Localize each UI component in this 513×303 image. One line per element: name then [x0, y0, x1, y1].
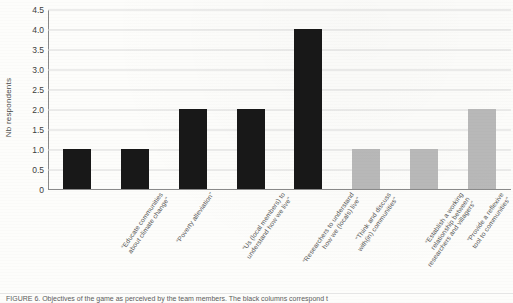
bar-slot [164, 9, 222, 189]
bar-slot [222, 9, 280, 189]
y-tick-label: 4.5 [32, 5, 44, 15]
x-tick-label: “Researchers to understandhow we (locals… [301, 191, 362, 269]
x-tick-label-line: how we (locals) live” [307, 195, 362, 268]
bar[interactable] [121, 149, 149, 189]
y-tick-label: 0 [39, 185, 44, 195]
y-tick-label: 0.5 [32, 165, 44, 175]
bar-slot [337, 9, 395, 189]
y-tick-label: 1.0 [32, 145, 44, 155]
y-tick-label: 1.5 [32, 125, 44, 135]
x-tick-label-line: “Poverty alleviation” [174, 191, 215, 245]
plot-area [48, 10, 511, 190]
bar-series [48, 10, 511, 190]
x-tick-label-line: “Researchers to understand [301, 191, 356, 264]
y-axis-title-text: Nb respondents [5, 77, 14, 136]
x-tick-label: “Educate communitiesabout climate change… [120, 191, 171, 255]
bar[interactable] [179, 109, 207, 189]
figure-container: Nb respondents 4.54.03.53.02.52.01.51.00… [0, 0, 513, 303]
y-axis-title: Nb respondents [2, 52, 16, 162]
bar-slot [106, 9, 164, 189]
y-axis-tick-labels: 4.54.03.53.02.52.01.51.00.50 [16, 10, 46, 190]
y-tick-label: 3.5 [32, 45, 44, 55]
bar-slot [395, 9, 453, 189]
y-tick-label: 2.0 [32, 105, 44, 115]
bar[interactable] [63, 149, 91, 189]
bar-slot [280, 9, 338, 189]
x-tick-label: “Us (local members) tounderstand how we … [238, 191, 293, 260]
bar-slot [453, 9, 511, 189]
bar[interactable] [237, 109, 265, 189]
bar[interactable] [410, 149, 438, 189]
x-tick-label-line: relationship between [420, 195, 471, 264]
figure-caption: FIGURE 6. Objectives of the game as perc… [6, 294, 507, 303]
bar[interactable] [294, 29, 322, 189]
x-tick-label: “Establish a workingrelationship between… [414, 191, 478, 268]
x-tick-label-line: understand how we live” [244, 195, 292, 259]
bar[interactable] [352, 149, 380, 189]
bar[interactable] [468, 109, 496, 189]
x-tick-label: “Poverty alleviation” [174, 191, 215, 245]
x-tick-label-line: “Educate communities [120, 191, 165, 250]
y-tick-label: 4.0 [32, 25, 44, 35]
y-tick-label: 3.0 [32, 65, 44, 75]
bar-slot [48, 9, 106, 189]
x-tick-label-line: “Us (local members) to [238, 191, 286, 255]
x-axis-category-labels: “Educate communitiesabout climate change… [48, 191, 511, 286]
y-tick-label: 2.5 [32, 85, 44, 95]
